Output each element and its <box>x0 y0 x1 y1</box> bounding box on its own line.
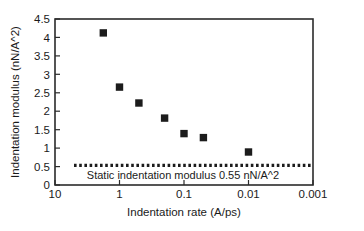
data-point-marker <box>135 99 142 106</box>
y-tick-label: 3.5 <box>34 50 50 62</box>
scatter-plot: 4.5 4 3.5 3 2.5 2 1.5 1 0.5 0 10 1 0.1 0… <box>0 0 364 231</box>
x-axis-title: Indentation rate (A/ps) <box>127 206 241 218</box>
data-point-marker <box>100 29 107 36</box>
y-axis-title: Indentation modulus (nN/A^2) <box>9 26 21 178</box>
y-tick-label: 4.5 <box>34 13 50 25</box>
x-tick-label: 0.1 <box>176 188 192 200</box>
data-point-marker <box>180 130 187 137</box>
y-tick-label: 4 <box>44 32 51 44</box>
data-point-marker <box>200 134 207 141</box>
y-tick-label: 2.5 <box>34 87 50 99</box>
static-modulus-annotation: Static indentation modulus 0.55 nN/A^2 <box>87 169 279 181</box>
data-point-marker <box>116 83 123 90</box>
x-tick-label: 1 <box>116 188 122 200</box>
x-tick-label: 0.01 <box>237 188 259 200</box>
y-tick-label: 1.5 <box>34 124 50 136</box>
y-tick-label: 2 <box>44 105 50 117</box>
data-point-marker <box>245 148 252 155</box>
x-tick-label: 10 <box>49 188 62 200</box>
y-tick-label: 1 <box>44 142 50 154</box>
y-tick-label: 0.5 <box>34 161 50 173</box>
data-point-marker <box>161 114 168 121</box>
chart-figure: 4.5 4 3.5 3 2.5 2 1.5 1 0.5 0 10 1 0.1 0… <box>0 0 364 231</box>
y-tick-label: 3 <box>44 69 50 81</box>
x-tick-label: 0.001 <box>299 188 328 200</box>
